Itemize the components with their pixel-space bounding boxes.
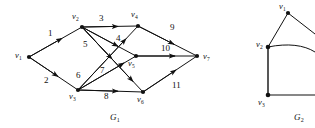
vertex-v5-dot	[134, 54, 138, 58]
vertex-v1-dot	[27, 55, 31, 59]
vertex-g2-v1-dot	[286, 11, 290, 15]
edge-weight-6: 6	[76, 70, 81, 80]
vertex-v7-dot	[195, 54, 199, 58]
edge-weight-9: 9	[170, 22, 175, 32]
vertex-v3-dot	[76, 88, 80, 92]
edge-weight-11: 11	[172, 80, 181, 90]
graph-figure: v1 v2 v3 v4 v5 v6 v7 1 2 3 5 4 6 7 8 9 1…	[0, 0, 315, 128]
vertex-g2-v3-dot	[266, 93, 271, 98]
edge-weight-1: 1	[48, 28, 53, 38]
edge-weight-4: 4	[116, 33, 121, 43]
edge-weight-5: 5	[83, 39, 88, 49]
vertex-v6-dot	[141, 90, 145, 94]
vertex-v4-dot	[136, 24, 140, 28]
graph-svg: v1 v2 v3 v4 v5 v6 v7 1 2 3 5 4 6 7 8 9 1…	[0, 0, 315, 128]
vertex-v2-dot	[80, 25, 84, 29]
vertex-g2-v2-dot	[266, 45, 271, 50]
edge-weight-10: 10	[161, 43, 171, 53]
edge-weight-7: 7	[100, 65, 105, 75]
edge-weight-2: 2	[44, 75, 49, 85]
edge-weight-3: 3	[99, 13, 104, 23]
edge-weight-8: 8	[104, 91, 109, 101]
